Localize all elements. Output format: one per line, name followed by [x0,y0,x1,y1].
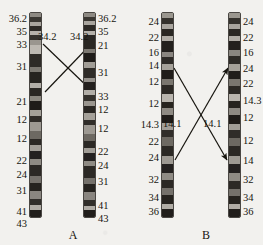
chromosome-band [162,146,173,156]
chromosome-band [162,108,173,115]
band-label: 34 [243,193,254,204]
chromosome-band [162,156,173,164]
chromosome-band [229,79,240,86]
chromosome-band [229,156,240,164]
band-label: 12 [17,115,28,126]
band-label: 21 [17,97,28,108]
band-label: 41 [98,201,109,212]
chromosome-band [162,41,173,51]
band-label: 43 [98,214,109,225]
chromosome-band [229,41,240,50]
chromosome-band [30,191,41,200]
band-label: 22 [98,147,109,158]
chromosome-band [84,210,95,217]
chromosome-band [229,108,240,115]
chromosome-band [229,56,240,64]
band-label-column-a-left: 36.23533312112122224314143 [0,0,27,245]
band-label: 36 [149,207,160,218]
chromosome-band [162,180,173,188]
chromosome-ideogram-a-left [29,12,42,218]
chromosome-band [30,165,41,177]
chromosome-band [30,131,41,139]
chromosome-band [162,94,173,102]
band-label: 22 [243,33,254,44]
chromosome-ideogram-b-right [228,12,241,218]
band-label: 12 [98,105,109,116]
chromosome-band [229,146,240,156]
breakpoint-label: 14.1 [163,118,181,129]
chromosome-band [162,173,173,180]
band-label: 16 [243,48,254,59]
chromosome-band [30,72,41,83]
band-label: 12 [98,124,109,135]
chromosome-band [162,164,173,173]
band-label: 24 [17,170,28,181]
chromosome-band [229,164,240,173]
breakpoint-label: 14.1 [203,118,221,129]
band-label-column-a-right: 36.23521313312122224314143 [98,0,128,245]
band-label: 36.2 [98,14,116,25]
chromosome-band [229,115,240,124]
chromosome-band [162,57,173,64]
band-label: 33 [98,92,109,103]
band-label: 22 [149,137,160,148]
chromosome-band [30,110,41,117]
band-label: 12 [243,136,254,147]
band-label-column-b-left: 24221614121214.32224323436 [129,0,159,245]
band-label: 24 [243,17,254,28]
chromosome-band [84,125,95,133]
band-label: 22 [243,79,254,90]
band-label: 12 [17,134,28,145]
band-label: 14 [243,156,254,167]
chromosome-band [229,130,240,138]
chromosome-band [229,29,240,36]
panel-caption-a: A [63,228,83,243]
figure-canvas: 36.2353331211212222431414336.23521313312… [0,0,263,245]
breakpoint-label: 34.2 [38,31,56,42]
band-label: 14.3 [141,120,159,131]
band-label: 34 [149,193,160,204]
chromosome-band [30,151,41,159]
band-label: 16 [149,48,160,59]
chromosome-band [84,82,95,89]
chromosome-band [229,71,240,79]
band-label: 22 [149,33,160,44]
band-label: 35 [17,27,28,38]
band-label: 31 [17,186,28,197]
band-label: 24 [98,161,109,172]
band-label: 35 [98,27,109,38]
band-label: 36.2 [9,14,27,25]
chromosome-band [84,53,95,61]
chromosome-band [30,122,41,131]
chromosome-band [84,184,95,191]
chromosome-ideogram-b-left [161,12,174,218]
band-label: 14.3 [243,96,261,107]
band-label: 31 [17,62,28,73]
chromosome-band [229,181,240,189]
chromosome-band [229,86,240,94]
chromosome-band [229,173,240,180]
chromosome-band [84,68,95,77]
chromosome-band [229,209,240,217]
chromosome-band [84,134,95,141]
chromosome-band [30,88,41,96]
chromosome-band [30,45,41,54]
chromosome-band [229,196,240,204]
band-label: 14 [149,61,160,72]
chromosome-band [30,139,41,146]
band-label: 24 [149,153,160,164]
chromosome-band [162,137,173,146]
chromosome-band [30,101,41,110]
band-label: 24 [149,17,160,28]
chromosome-band [84,166,95,177]
band-label: 32 [149,175,160,186]
band-label: 36 [243,207,254,218]
band-label-column-b-right: 242216242214.3121214323436 [243,0,263,245]
breakpoint-label: 34.2 [70,31,88,42]
chromosome-band [229,101,240,108]
band-label: 32 [243,175,254,186]
chromosome-band [229,138,240,146]
band-label: 31 [98,68,109,79]
chromosome-band [84,153,95,160]
chromosome-band [162,70,173,79]
